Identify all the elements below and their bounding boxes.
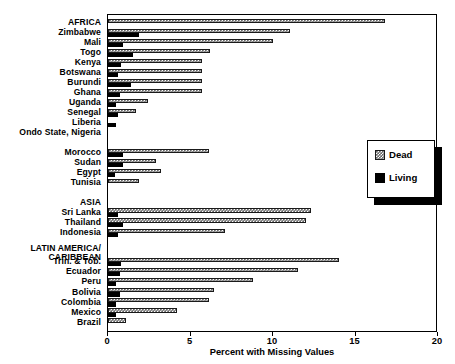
y-axis-tick-label: Liberia — [72, 118, 101, 127]
bar-group — [108, 229, 436, 239]
bar-group — [108, 318, 436, 328]
bar-living — [108, 103, 116, 107]
y-axis-tick-label: Brazil — [77, 318, 101, 327]
y-axis-tick-label: Botswana — [60, 68, 101, 77]
bar-group — [108, 69, 436, 79]
y-axis-tick-label: AFRICA — [68, 18, 101, 27]
y-axis-tick-label: Sudan — [74, 158, 101, 167]
legend-swatch-living-icon — [375, 173, 385, 183]
bar-dead — [108, 59, 202, 63]
x-axis-tick-label: 5 — [187, 336, 192, 346]
bar-group — [108, 99, 436, 109]
bar-living — [108, 43, 123, 47]
bar-dead — [108, 268, 298, 272]
y-axis-tick-label: Peru — [81, 277, 101, 286]
bar-group — [108, 119, 436, 129]
bar-group — [108, 89, 436, 99]
bar-living — [108, 292, 120, 296]
bar-group — [108, 109, 436, 119]
y-axis-tick-label: Togo — [80, 48, 101, 57]
y-axis-tick-label: Morocco — [64, 148, 101, 157]
bar-living — [108, 73, 118, 77]
bar-living — [108, 33, 139, 37]
bar-dead — [108, 288, 214, 292]
bar-living — [108, 93, 120, 97]
y-axis-tick-label: Mexico — [71, 308, 101, 317]
bar-group — [108, 278, 436, 288]
bar-group — [108, 79, 436, 89]
bar-group — [108, 268, 436, 278]
bar-dead — [108, 258, 339, 262]
y-axis-tick-label: Mali — [84, 38, 101, 47]
bar-group — [108, 129, 436, 139]
bar-living — [108, 302, 116, 306]
x-axis-tick-label: 20 — [432, 336, 442, 346]
x-axis-tick-label: 10 — [267, 336, 277, 346]
legend-entry-living: Living — [375, 172, 417, 183]
bar-dead — [108, 318, 126, 322]
x-axis-title: Percent with Missing Values — [107, 347, 437, 357]
y-axis-tick-label: Ghana — [74, 88, 101, 97]
bar-living — [108, 63, 121, 67]
y-axis-tick-label: Egypt — [77, 168, 101, 177]
bar-dead — [108, 278, 253, 282]
y-axis-labels: AFRICAZimbabweMaliTogoKenyaBotswanaBurun… — [0, 14, 104, 332]
y-axis-tick-label: Kenya — [75, 58, 101, 67]
bar-living — [108, 223, 123, 227]
bar-living — [108, 173, 115, 177]
y-axis-tick-label: Bolivia — [72, 288, 101, 297]
legend-entry-dead: Dead — [375, 149, 412, 160]
bar-living — [108, 313, 116, 317]
bar-group — [108, 19, 436, 29]
legend-swatch-dead-icon — [375, 150, 385, 160]
y-axis-tick-label: Burundi — [67, 78, 101, 87]
bar-group — [108, 218, 436, 228]
x-axis-tick-label: 0 — [104, 336, 109, 346]
y-axis-tick-label: Ondo State, Nigeria — [19, 128, 101, 137]
y-axis-tick-label: Indonesia — [60, 228, 101, 237]
bar-living — [108, 163, 123, 167]
y-axis-tick-label: Ecuador — [66, 267, 101, 276]
bar-living — [108, 153, 123, 157]
bar-group — [108, 308, 436, 318]
bar-living — [108, 123, 116, 127]
bar-group — [108, 248, 436, 258]
bar-living — [108, 233, 118, 237]
y-axis-tick-label: Senegal — [67, 108, 101, 117]
bar-group — [108, 208, 436, 218]
bar-dead — [108, 69, 202, 73]
bar-group — [108, 59, 436, 69]
bar-living — [108, 113, 118, 117]
bar-living — [108, 272, 120, 276]
bar-dead — [108, 39, 273, 43]
y-axis-tick-label: Colombia — [61, 298, 101, 307]
bar-dead — [108, 229, 225, 233]
y-axis-tick-label: Tunisia — [71, 178, 101, 187]
bar-dead — [108, 298, 209, 302]
bar-living — [108, 53, 133, 57]
y-axis-tick-label: Zimbabwe — [58, 28, 101, 37]
bar-group — [108, 298, 436, 308]
legend-label-living: Living — [389, 172, 417, 183]
bar-chart: AFRICAZimbabweMaliTogoKenyaBotswanaBurun… — [0, 0, 455, 364]
bar-dead — [108, 179, 139, 183]
bar-group — [108, 49, 436, 59]
y-axis-tick-label: ASIA — [80, 198, 101, 207]
x-axis: 05101520 — [107, 332, 437, 346]
bar-dead — [108, 208, 311, 212]
bar-dead — [108, 218, 306, 222]
bar-group — [108, 29, 436, 39]
bar-dead — [108, 149, 209, 153]
bar-group — [108, 288, 436, 298]
bar-dead — [108, 308, 177, 312]
bar-living — [108, 213, 118, 217]
bar-living — [108, 262, 121, 266]
legend: Dead Living — [367, 140, 435, 198]
y-axis-tick-label: Thailand — [65, 218, 101, 227]
bar-living — [108, 282, 116, 286]
y-axis-tick-label: Uganda — [69, 98, 101, 107]
y-axis-tick-label: Sri Lanka — [61, 208, 101, 217]
bar-dead — [108, 89, 202, 93]
x-axis-tick-label: 15 — [349, 336, 359, 346]
bar-group — [108, 39, 436, 49]
